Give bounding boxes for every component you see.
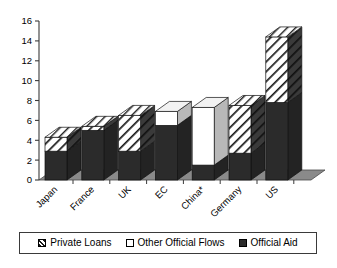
legend-label-other-official-flows: Other Official Flows	[138, 238, 225, 248]
y-axis: 0 2 4 6 8 10 12 14 16	[21, 15, 39, 185]
legend-label-private-loans: Private Loans	[50, 238, 111, 248]
chart-plot-area: 0 2 4 6 8 10 12 14 16 JapanFranceUKECChi…	[0, 0, 337, 268]
bar-segment-side	[177, 115, 191, 180]
bar-segment-front	[266, 102, 288, 180]
bar-segment-front	[192, 165, 214, 180]
chart-legend: Private Loans Other Official Flows Offic…	[19, 232, 317, 254]
bar-segment-side	[288, 27, 302, 103]
bar-segment-front	[155, 125, 177, 180]
bar-segment-front	[229, 105, 251, 153]
y-axis-ticks	[35, 21, 39, 180]
bar-segment-front	[192, 107, 214, 165]
bar-group	[82, 116, 118, 180]
x-axis-label: US	[263, 184, 280, 201]
legend-item-other-official-flows: Other Official Flows	[126, 238, 225, 248]
bar-group	[119, 105, 155, 180]
y-tick-label-6: 6	[27, 115, 32, 126]
x-axis-label: Japan	[33, 184, 59, 210]
x-axis-label: China*	[179, 183, 207, 211]
bar-group	[229, 95, 265, 180]
x-axis-ticks	[73, 180, 294, 184]
y-tick-label-2: 2	[27, 155, 32, 166]
legend-item-official-aid: Official Aid	[239, 238, 298, 248]
bar-series-group	[45, 27, 302, 180]
x-axis-label: UK	[116, 183, 134, 201]
x-axis-label: Germany	[208, 183, 244, 219]
bar-group	[192, 97, 228, 180]
dark-swatch-icon	[239, 239, 247, 247]
y-tick-label-16: 16	[21, 15, 32, 26]
y-tick-label-14: 14	[21, 35, 32, 46]
bar-segment-front	[119, 115, 141, 151]
bar-segment-front	[82, 126, 104, 130]
bar-segment-front	[82, 130, 104, 180]
bar-chart: 0 2 4 6 8 10 12 14 16 JapanFranceUKECChi…	[0, 0, 337, 268]
bar-segment-side	[288, 92, 302, 180]
legend-item-private-loans: Private Loans	[38, 238, 111, 248]
white-swatch-icon	[126, 239, 134, 247]
y-tick-label-0: 0	[27, 174, 32, 185]
bar-segment-front	[119, 151, 141, 180]
bar-segment-side	[104, 120, 118, 180]
bar-group	[45, 127, 81, 180]
x-axis-label: EC	[153, 184, 170, 201]
bar-segment-front	[229, 153, 251, 180]
bar-segment-front	[45, 151, 67, 180]
bar-segment-front	[45, 137, 67, 151]
y-tick-label-12: 12	[21, 55, 32, 66]
y-tick-label-10: 10	[21, 75, 32, 86]
hatch-swatch-icon	[38, 239, 46, 247]
bar-segment-front	[266, 37, 288, 103]
legend-label-official-aid: Official Aid	[251, 238, 298, 248]
bar-group	[266, 27, 302, 180]
y-tick-label-4: 4	[27, 135, 32, 146]
bar-segment-front	[155, 111, 177, 125]
bar-group	[155, 101, 191, 180]
bar-segment-side	[214, 97, 228, 165]
x-axis-labels: JapanFranceUKECChina*GermanyUS	[33, 183, 280, 219]
x-axis-label: France	[68, 184, 97, 213]
y-tick-label-8: 8	[27, 95, 32, 106]
